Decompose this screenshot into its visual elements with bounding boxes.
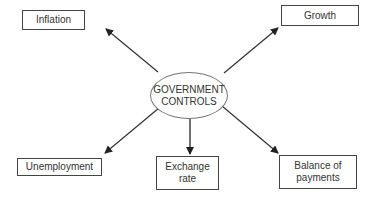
balance-of-payments-label-line1: Balance of [294,160,341,172]
arrow-to-growth [224,28,278,73]
center-label-line1: GOVERNMENT [153,84,225,96]
balance-of-payments-label-line2: payments [296,172,339,184]
growth-label: Growth [304,10,336,22]
arrow-to-inflation [106,29,158,72]
exchange-rate-label-line2: rate [179,173,196,185]
exchange-rate-label-line1: Exchange [165,161,209,173]
inflation-node: Inflation [22,10,85,30]
inflation-label: Inflation [36,14,71,26]
center-label-line2: CONTROLS [161,96,217,108]
arrow-to-balance-of-payments [222,106,278,153]
growth-node: Growth [281,5,359,26]
unemployment-label: Unemployment [26,161,93,173]
government-controls-node: GOVERNMENT CONTROLS [150,72,228,119]
arrow-to-unemployment [105,108,159,153]
exchange-rate-node: Exchange rate [156,156,219,190]
balance-of-payments-node: Balance of payments [279,155,357,189]
unemployment-node: Unemployment [17,158,102,176]
